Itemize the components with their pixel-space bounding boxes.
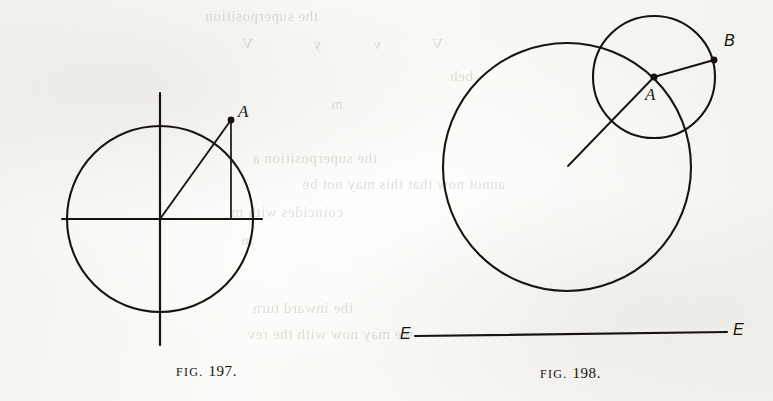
fig198-point-a-label: A	[645, 86, 655, 103]
fig198-point-a-marker	[650, 73, 657, 80]
fig198-radius-a-to-b	[654, 60, 714, 77]
fig198-point-b-marker	[711, 57, 718, 64]
fig198-baseline-left-label: E	[400, 326, 411, 342]
fig198-caption-prefix: FIG.	[540, 367, 568, 381]
fig-198-drawing	[0, 0, 773, 401]
fig-198-caption: FIG. 198.	[540, 366, 601, 381]
fig198-line-through-centers	[568, 77, 654, 166]
fig198-baseline	[415, 332, 727, 336]
scanned-figure-plate: the superposition V v y V beh m the supe…	[0, 0, 773, 401]
fig198-point-b-label: B	[724, 33, 735, 49]
fig198-baseline-right-label: E	[733, 322, 744, 338]
fig198-caption-number: 198.	[572, 365, 601, 381]
